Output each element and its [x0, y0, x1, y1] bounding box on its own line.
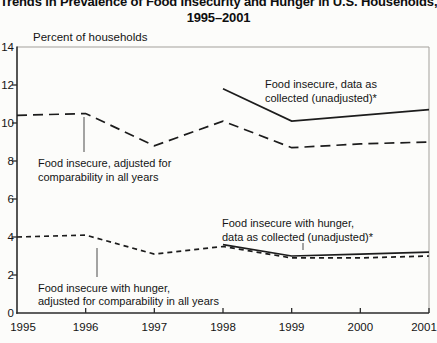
- label-food-insecure-unadjusted-line2: collected (unadjusted)*: [265, 92, 378, 104]
- label-hunger-unadjusted-line1: Food insecure with hunger,: [222, 217, 354, 229]
- label-food-insecure-adjusted-line1: Food insecure, adjusted for: [38, 157, 172, 169]
- series-line-2-solid: [223, 245, 429, 256]
- y-tick-label: 6: [8, 193, 14, 205]
- y-tick-label: 14: [1, 41, 14, 53]
- y-tick-label: 0: [8, 307, 14, 319]
- y-tick-label: 2: [8, 269, 14, 281]
- label-hunger-unadjusted-line2: data as collected (unadjusted)*: [222, 231, 374, 243]
- x-tick-label: 1999: [279, 321, 305, 333]
- y-tick-label: 10: [1, 117, 14, 129]
- x-tick-label: 1997: [142, 321, 168, 333]
- label-food-insecure-unadjusted-line1: Food insecure, data as: [265, 78, 377, 90]
- y-tick-label: 12: [1, 79, 14, 91]
- x-tick-label: 1996: [73, 321, 99, 333]
- x-tick-label: 2000: [348, 321, 374, 333]
- x-tick-label: 1995: [10, 321, 36, 333]
- label-hunger-adjusted-line2: adjusted for comparability in all years: [38, 295, 219, 307]
- figure: Trends in Prevalence of Food Insecurity …: [0, 0, 437, 343]
- line-chart: Percent of households 024681012141995199…: [0, 0, 437, 343]
- label-hunger-adjusted-line1: Food insecure with hunger,: [38, 282, 170, 294]
- y-tick-label: 8: [8, 155, 14, 167]
- label-food-insecure-adjusted-line2: comparability in all years: [38, 171, 159, 183]
- x-tick-label: 1998: [210, 321, 236, 333]
- x-tick-label: 2001: [411, 321, 437, 333]
- y-axis-title: Percent of households: [33, 31, 148, 43]
- y-tick-label: 4: [8, 231, 15, 243]
- series-line-1-long-dash: [17, 114, 429, 148]
